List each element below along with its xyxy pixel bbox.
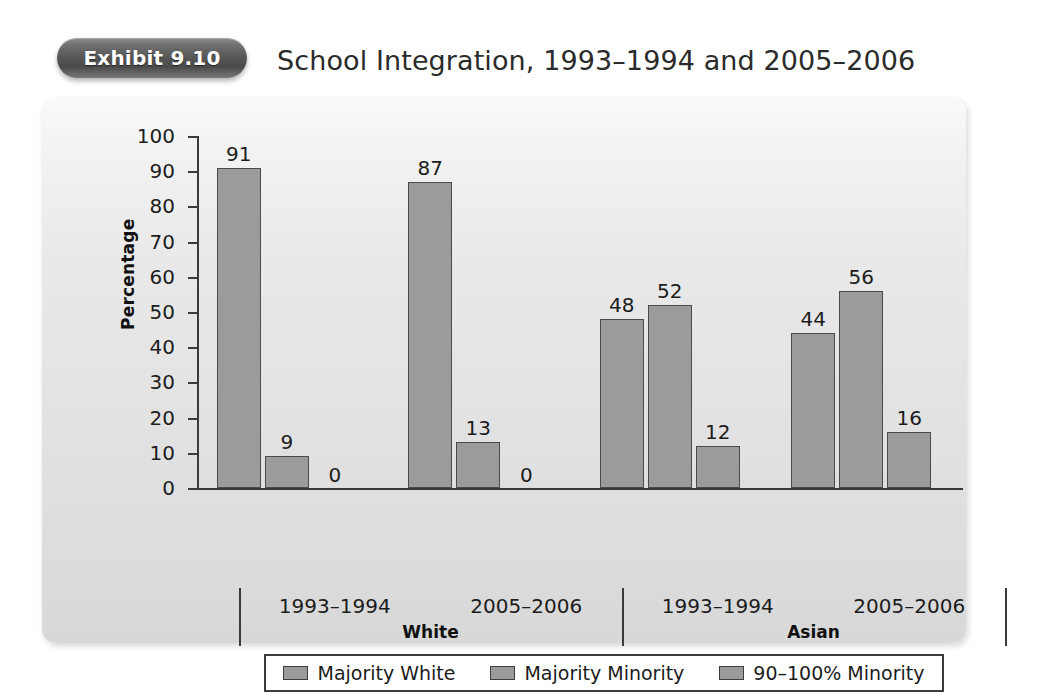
x-axis-line: [197, 488, 963, 490]
chart-legend: Majority WhiteMajority Minority90–100% M…: [264, 654, 944, 692]
y-axis-title: Percentage: [118, 219, 138, 330]
y-axis-tick-label: 100: [137, 124, 175, 148]
period-label: 2005–2006: [853, 594, 965, 618]
bar-value-label: 56: [849, 265, 874, 289]
y-axis-tick-label: 10: [150, 440, 175, 464]
y-axis-tick-label: 20: [150, 405, 175, 429]
legend-label: Majority Minority: [524, 662, 684, 684]
bar-value-label: 13: [466, 416, 491, 440]
bar-value-label: 0: [520, 463, 533, 487]
bar: 16: [887, 432, 931, 488]
y-axis-tick-label: 50: [150, 300, 175, 324]
legend-swatch-icon: [719, 666, 744, 680]
y-axis-tick-label: 40: [150, 335, 175, 359]
bar-value-label: 9: [280, 430, 293, 454]
bar: 48: [600, 319, 644, 488]
y-axis-tick: 10: [188, 453, 197, 455]
legend-item: 90–100% Minority: [719, 662, 924, 684]
page-title: School Integration, 1993–1994 and 2005–2…: [277, 45, 915, 76]
exhibit-badge: Exhibit 9.10: [57, 38, 247, 78]
y-axis-tick: 0: [188, 488, 197, 490]
bar-value-label: 87: [418, 156, 443, 180]
y-axis-tick-label: 80: [150, 194, 175, 218]
bar: 52: [648, 305, 692, 488]
legend-label: 90–100% Minority: [753, 662, 924, 684]
bar-value-label: 52: [657, 279, 682, 303]
y-axis-tick-label: 70: [150, 229, 175, 253]
bar-value-label: 44: [801, 307, 826, 331]
bar: 12: [696, 446, 740, 488]
legend-swatch-icon: [490, 666, 515, 680]
y-axis-tick-label: 90: [150, 159, 175, 183]
y-axis-tick-label: 30: [150, 370, 175, 394]
y-axis-tick: 30: [188, 382, 197, 384]
y-axis-tick: 60: [188, 277, 197, 279]
y-axis-tick-label: 0: [162, 476, 175, 500]
category-axis: 1993–19942005–20061993–19942005–2006Whit…: [239, 588, 1007, 646]
legend-item: Majority White: [283, 662, 455, 684]
y-axis-tick: 40: [188, 347, 197, 349]
exhibit-badge-label: Exhibit 9.10: [83, 46, 220, 70]
y-axis-tick: 100: [188, 136, 197, 138]
y-axis-tick: 20: [188, 418, 197, 420]
y-axis-tick: 50: [188, 312, 197, 314]
category-separator: [1005, 588, 1007, 646]
legend-item: Majority Minority: [490, 662, 684, 684]
group-label: White: [402, 622, 458, 642]
exhibit-header: Exhibit 9.10 School Integration, 1993–19…: [0, 0, 1054, 100]
legend-swatch-icon: [283, 666, 308, 680]
period-label: 1993–1994: [662, 594, 774, 618]
y-axis-line: [197, 136, 199, 489]
plot-area: 1009080706050403020100 91908713048521244…: [197, 136, 963, 488]
period-label: 2005–2006: [470, 594, 582, 618]
bar-value-label: 0: [328, 463, 341, 487]
group-label: Asian: [787, 622, 840, 642]
bar: 87: [408, 182, 452, 488]
legend-label: Majority White: [317, 662, 455, 684]
y-axis-tick: 80: [188, 206, 197, 208]
y-axis-tick: 90: [188, 171, 197, 173]
bar: 56: [839, 291, 883, 488]
y-axis-tick: 70: [188, 242, 197, 244]
bar: 9: [265, 456, 309, 488]
y-axis-tick-label: 60: [150, 264, 175, 288]
bar-value-label: 91: [226, 142, 251, 166]
bar: 13: [456, 442, 500, 488]
chart-panel: Percentage 1009080706050403020100 919087…: [42, 98, 966, 643]
period-label: 1993–1994: [279, 594, 391, 618]
category-separator: [239, 588, 241, 646]
bar: 91: [217, 168, 261, 488]
bar-value-label: 48: [609, 293, 634, 317]
bar: 44: [791, 333, 835, 488]
bar-value-label: 16: [897, 406, 922, 430]
category-separator: [622, 588, 624, 646]
bar-value-label: 12: [705, 420, 730, 444]
